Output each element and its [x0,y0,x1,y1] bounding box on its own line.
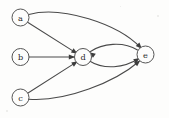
node-c[interactable]: c [12,89,29,106]
edge-b-to-d [29,55,75,60]
graph-figure: a b c d e [0,0,169,118]
scan-speck [157,15,159,17]
edge-c-to-d [28,59,79,93]
node-d[interactable]: d [75,49,92,66]
edge-path-c-d [28,62,76,93]
node-label-a: a [18,13,23,23]
edge-path-a-e [29,12,141,47]
edge-a-to-e [29,12,144,50]
edge-path-a-d [28,22,76,52]
node-label-b: b [18,52,23,62]
edge-path-d-e [90,59,139,67]
edge-e-to-d [88,44,138,58]
node-label-d: d [80,52,85,62]
edge-d-to-e [90,56,142,67]
node-label-e: e [143,50,148,60]
scan-speck [6,110,8,112]
edge-a-to-d [28,22,79,56]
edge-path-e-d [91,44,138,51]
node-e[interactable]: e [137,46,154,63]
node-a[interactable]: a [12,9,29,26]
scan-speck [120,6,121,7]
node-b[interactable]: b [12,49,29,66]
graph-canvas: a b c d e [0,0,169,118]
node-label-c: c [18,93,23,103]
edge-path-c-e [29,62,140,100]
